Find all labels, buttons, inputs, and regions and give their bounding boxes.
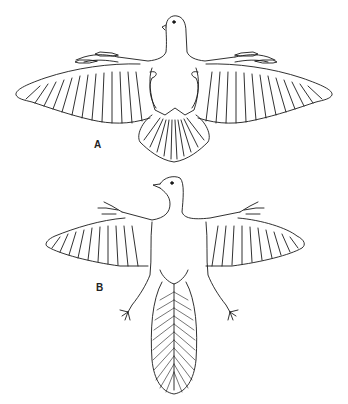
- illustration-canvas: [0, 0, 348, 404]
- bird-b-beak: [153, 184, 160, 188]
- bird-b-left-hand: [98, 202, 122, 214]
- panel-label-a: A: [94, 139, 101, 150]
- bird-a-beak: [162, 25, 166, 30]
- bird-b-body: [128, 222, 152, 312]
- bird-b-right-hand: [240, 202, 264, 214]
- bird-b-left-wing: [46, 218, 148, 266]
- bird-b-right-flight-feathers: [212, 226, 298, 266]
- bird-a-right-flight-feathers: [206, 72, 322, 123]
- bird-a-left-flight-feathers: [26, 72, 142, 123]
- bird-a-eye: [173, 21, 176, 24]
- bird-b-right-wing: [206, 218, 304, 266]
- bird-b: [46, 177, 304, 394]
- bird-b-eye: [171, 182, 174, 185]
- bird-a: [16, 16, 332, 162]
- bird-a-head: [166, 16, 235, 61]
- bird-a-tail: [139, 115, 210, 162]
- panel-label-b: B: [96, 282, 103, 293]
- bird-a-body: [150, 68, 199, 115]
